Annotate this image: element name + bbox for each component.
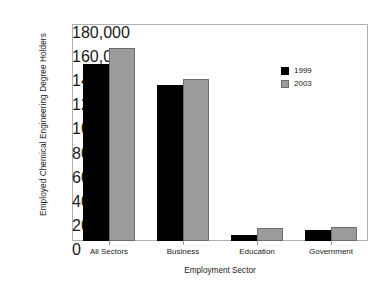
legend-item-2003: 2003 <box>281 77 312 90</box>
x-tick-label: All Sectors <box>72 247 146 256</box>
bar-business-1999 <box>157 85 183 241</box>
legend-swatch-icon <box>281 67 289 75</box>
bar-all-sectors-2003 <box>109 48 135 241</box>
bar-government-2003 <box>331 227 357 241</box>
x-axis-title: Employment Sector <box>72 266 368 275</box>
bar-all-sectors-1999 <box>83 64 109 241</box>
x-tick-label: Government <box>294 247 368 256</box>
x-tick-mark <box>183 241 184 245</box>
legend-label: 2003 <box>294 79 312 88</box>
x-tick-mark <box>331 241 332 245</box>
x-tick-mark <box>257 241 258 245</box>
bar-government-1999 <box>305 230 331 241</box>
bar-series-group <box>72 24 368 241</box>
x-tick-label: Business <box>146 247 220 256</box>
legend-item-1999: 1999 <box>281 64 312 77</box>
chart-legend: 19992003 <box>281 64 312 90</box>
x-tick-label: Education <box>220 247 294 256</box>
y-axis-title: Employed Chemical Engineering Degree Hol… <box>39 5 48 245</box>
bar-business-2003 <box>183 79 209 241</box>
bar-chart: Employed Chemical Engineering Degree Hol… <box>0 0 386 290</box>
legend-label: 1999 <box>294 66 312 75</box>
bar-education-2003 <box>257 228 283 241</box>
x-tick-mark <box>109 241 110 245</box>
legend-swatch-icon <box>281 80 289 88</box>
